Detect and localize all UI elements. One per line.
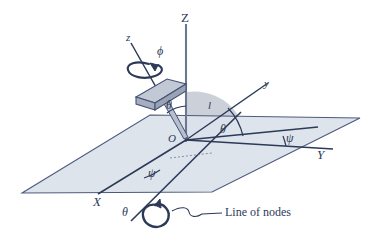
theta-rotation-arrow [143, 204, 169, 227]
angle-psi-right-label: ψ [286, 132, 293, 144]
reference-plane [22, 115, 360, 193]
diagram-canvas [0, 0, 373, 243]
axis-Y-label: Y [317, 148, 324, 161]
angle-phi-label: ϕ [157, 45, 163, 57]
axis-X-label: X [93, 195, 101, 208]
axis-y-body-label: y [264, 78, 269, 89]
angle-theta-lower-label: θ [220, 123, 226, 135]
axis-Z-label: Z [181, 11, 189, 24]
theta-arrowhead [155, 199, 161, 208]
axis-z-body-label: z [126, 32, 130, 43]
origin-label: O [168, 133, 176, 144]
line-of-nodes-caption: Line of nodes [225, 206, 291, 218]
line-of-nodes-leader [172, 208, 222, 217]
angle-psi-left-label: ψ [148, 167, 155, 179]
length-l-label: l [208, 100, 211, 111]
euler-angles-figure: Z Y X z y ϕ θ θ ψ ψ θ l O Line of nodes [0, 0, 373, 243]
angle-theta-upper-label: θ [166, 99, 172, 111]
phi-arrowhead [150, 63, 158, 71]
angle-theta-nodes-label: θ [122, 206, 128, 218]
